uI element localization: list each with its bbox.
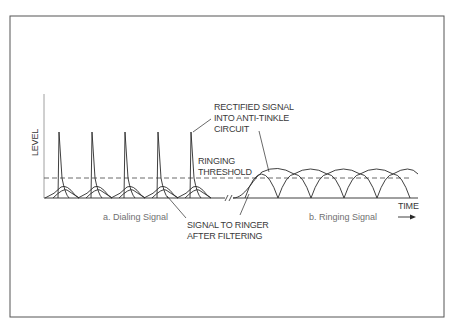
rectified-leader-2 — [259, 131, 269, 172]
rectified-leader — [193, 119, 211, 132]
filtered-hump — [111, 186, 145, 198]
axis-break-icon — [225, 195, 232, 201]
filtered-hump — [45, 186, 79, 198]
x-axis-label: TIME — [398, 201, 419, 211]
ringing-signal — [233, 168, 418, 198]
y-axis-label: LEVEL — [30, 129, 40, 156]
signal-diagram: LEVEL RECTIFIED SIGNAL INTO ANTI-TINKLE … — [0, 0, 453, 331]
threshold-label-2: THRESHOLD — [198, 167, 252, 177]
threshold-label-1: RINGING — [198, 156, 235, 166]
filtered-label-2: AFTER FILTERING — [187, 231, 263, 241]
rectified-label-3: CIRCUIT — [214, 124, 250, 134]
filtered-hump — [78, 186, 112, 198]
filtered-leader-2 — [240, 194, 249, 215]
rectified-label-1: RECTIFIED SIGNAL — [214, 102, 294, 112]
filtered-hump — [177, 186, 211, 198]
time-arrow-icon — [398, 215, 416, 220]
dialing-signal — [45, 132, 211, 198]
filtered-hump — [144, 186, 178, 198]
filtered-leader — [167, 196, 186, 218]
filtered-label-1: SIGNAL TO RINGER — [187, 220, 269, 230]
ringing-caption: b. Ringing Signal — [309, 212, 377, 222]
filtered-ringing — [233, 168, 418, 198]
dialing-caption: a. Dialing Signal — [103, 212, 168, 222]
rectified-label-2: INTO ANTI-TINKLE — [214, 113, 289, 123]
